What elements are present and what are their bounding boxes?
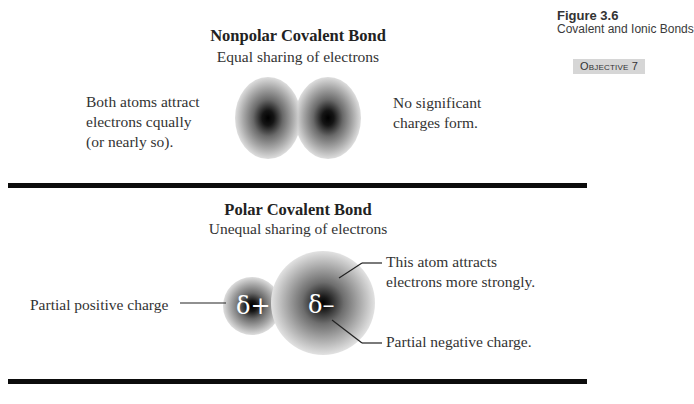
nonpolar-atom-right xyxy=(295,77,361,159)
delta-plus-symbol: δ+ xyxy=(236,292,271,320)
nonpolar-atom-left xyxy=(235,77,301,159)
delta-minus-symbol: δ– xyxy=(308,291,334,319)
polar-molecule: δ+ δ– xyxy=(223,251,375,355)
nonpolar-molecule xyxy=(235,77,361,159)
